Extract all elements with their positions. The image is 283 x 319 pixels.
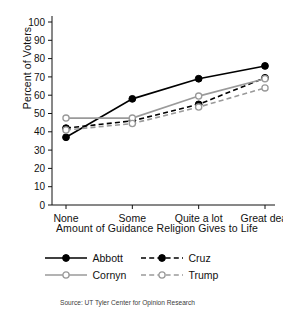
y-tick-label: 70 — [34, 72, 46, 83]
data-point — [63, 127, 69, 133]
series-layer — [63, 63, 269, 141]
data-point — [63, 134, 70, 141]
data-point — [196, 104, 202, 110]
data-point — [129, 120, 135, 126]
legend-label: Abbott — [93, 252, 123, 264]
y-tick-label: 80 — [34, 53, 46, 64]
x-tick-group: NoneSomeQuite a lotGreat deal — [53, 205, 283, 224]
legend-marker — [62, 255, 69, 262]
data-point — [129, 95, 136, 102]
y-tick-label: 50 — [34, 108, 46, 119]
legend-swatch-trump — [140, 269, 184, 281]
y-tick-label: 30 — [34, 145, 46, 156]
legend-swatch-abbott — [44, 252, 88, 264]
legend-item-cornyn[interactable]: Cornyn — [44, 269, 140, 281]
chart-figure: Percent of Voters Amount of Guidance Rel… — [0, 0, 283, 319]
data-point — [196, 93, 202, 99]
x-tick-label: Great deal — [240, 212, 283, 224]
data-point — [63, 115, 69, 121]
data-point — [262, 63, 269, 70]
chart-legend: AbbottCruzCornynTrump — [0, 252, 283, 281]
y-tick-label: 100 — [28, 17, 45, 28]
legend-swatch-cornyn — [44, 269, 88, 281]
legend-item-cruz[interactable]: Cruz — [140, 252, 240, 264]
series-line — [66, 66, 265, 137]
legend-item-trump[interactable]: Trump — [140, 269, 240, 281]
y-tick-label: 60 — [34, 90, 46, 101]
source-note: Source: UT Tyler Center for Opinion Rese… — [60, 299, 195, 306]
x-tick-label: Quite a lot — [175, 212, 223, 224]
data-point — [195, 75, 202, 82]
legend-label: Cruz — [189, 252, 211, 264]
y-tick-label: 10 — [34, 181, 46, 192]
series-cruz — [63, 74, 269, 131]
series-line — [66, 88, 265, 130]
data-point — [262, 76, 268, 82]
y-tick-label: 0 — [39, 200, 45, 211]
x-tick-label: Some — [119, 212, 147, 224]
y-tick-label: 90 — [34, 35, 46, 46]
legend-marker — [158, 255, 165, 262]
series-cornyn — [63, 76, 268, 122]
y-tick-label: 20 — [34, 163, 46, 174]
data-point — [262, 85, 268, 91]
legend-marker — [62, 272, 68, 278]
line-chart-svg: 0102030405060708090100 NoneSomeQuite a l… — [0, 0, 283, 240]
legend-label: Cornyn — [93, 269, 127, 281]
legend-swatch-cruz — [140, 252, 184, 264]
legend-item-abbott[interactable]: Abbott — [44, 252, 140, 264]
x-tick-label: None — [53, 212, 78, 224]
y-tick-group: 0102030405060708090100 — [28, 17, 52, 211]
legend-label: Trump — [189, 269, 219, 281]
series-abbott — [63, 63, 269, 141]
plot-area: Percent of Voters Amount of Guidance Rel… — [0, 0, 283, 240]
y-tick-label: 40 — [34, 126, 46, 137]
legend-marker — [158, 272, 164, 278]
